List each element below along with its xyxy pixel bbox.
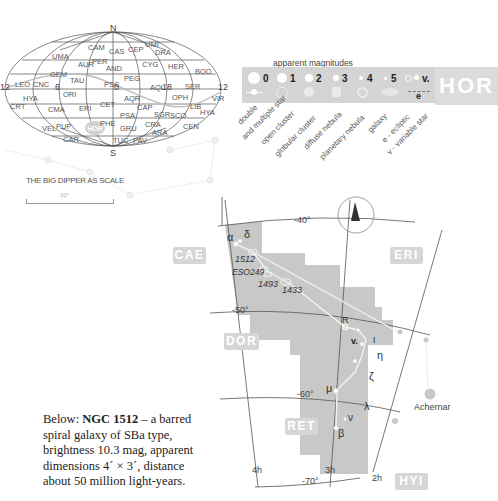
object-label-ngc1493: 1493 [258, 279, 278, 289]
star-label-achernar: Achernar [414, 402, 451, 412]
neighbor-badge-cae: CAE [173, 247, 206, 264]
star-label-lambda: λ [364, 400, 370, 412]
neighbor-badge-dor: DOR [224, 333, 259, 350]
star-label-nu: ν [348, 412, 353, 423]
neighbor-badge-hyi: HYI [395, 473, 428, 490]
neighbor-badge-eri: ERI [390, 247, 423, 264]
compass-north-arrow-icon [351, 202, 360, 221]
star-label-beta: β [338, 427, 344, 439]
object-label-ngc1433: 1433 [282, 285, 302, 295]
caption: Below: NGC 1512 – a barred spiral galaxy… [43, 412, 203, 490]
star-label-variable: v. [351, 336, 358, 346]
star-label-r: R [342, 315, 349, 325]
star-label-zeta: ζ [369, 370, 374, 382]
ra-label-3h: 3h [325, 465, 335, 475]
star-label-alpha: α [227, 231, 233, 243]
star-label-delta: δ [244, 228, 250, 240]
star-label-eta: η [377, 349, 383, 361]
star-label-mu: μ [326, 382, 332, 394]
neighbor-badge-ret: RET [285, 418, 318, 435]
ra-label-4h: 4h [252, 465, 262, 475]
object-label-eso249: ESO249 [232, 267, 264, 277]
ra-label-2h: 2h [372, 473, 382, 483]
star-label-iota: ι [373, 334, 375, 345]
dec-label-40: -40° [294, 215, 311, 225]
dec-label-60: -60° [297, 389, 314, 399]
object-label-ngc1512: 1512 [235, 254, 255, 264]
dec-label-50: -50° [232, 305, 249, 315]
caption-object-name: NGC 1512 [82, 412, 138, 426]
caption-prefix: Below: [43, 412, 82, 426]
dec-label-70: -70° [302, 476, 319, 486]
